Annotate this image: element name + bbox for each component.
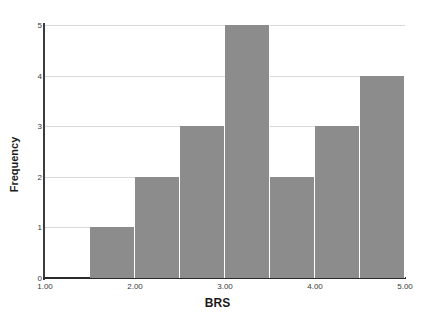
y-tick-label: 3 bbox=[20, 122, 42, 131]
y-tick-label: 5 bbox=[20, 21, 42, 30]
histogram-bar bbox=[270, 177, 315, 278]
histogram-bar bbox=[315, 126, 360, 278]
histogram-bar bbox=[360, 76, 405, 278]
x-tick-label: 1.00 bbox=[25, 282, 65, 291]
x-tick-label: 4.00 bbox=[295, 282, 335, 291]
histogram-bar bbox=[135, 177, 180, 278]
x-tick-label: 3.00 bbox=[205, 282, 245, 291]
plot-area bbox=[45, 25, 405, 278]
histogram-bar bbox=[225, 25, 270, 278]
y-tick-label: 4 bbox=[20, 71, 42, 80]
x-tick-label: 5.00 bbox=[385, 282, 422, 291]
histogram-bar bbox=[180, 126, 225, 278]
y-tick-label: 1 bbox=[20, 223, 42, 232]
histogram-bar bbox=[90, 227, 135, 278]
y-axis-tick-labels: 012345 bbox=[12, 25, 42, 278]
x-axis-title: BRS bbox=[45, 296, 390, 310]
y-tick-label: 2 bbox=[20, 172, 42, 181]
x-tick-label: 2.00 bbox=[115, 282, 155, 291]
histogram-chart: Frequency 012345 1.002.003.004.005.00 BR… bbox=[0, 0, 422, 329]
